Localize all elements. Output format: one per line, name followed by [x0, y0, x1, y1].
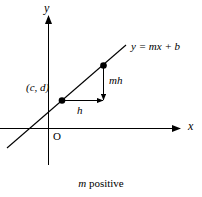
graph-line [7, 45, 126, 148]
x-axis-label: x [188, 120, 193, 132]
diagram-canvas [0, 0, 202, 197]
point-second [100, 62, 107, 69]
point-c-d [59, 97, 66, 104]
rise-label: mh [109, 75, 122, 86]
slope-diagram-figure: y x O y = mx + b (c, d) mh h m positive [0, 0, 202, 197]
figure-caption: m positive [0, 178, 202, 189]
caption-variable: m [78, 177, 86, 189]
origin-label: O [53, 131, 61, 142]
line-equation-label: y = mx + b [131, 41, 180, 52]
point-coordinate-label: (c, d) [26, 82, 49, 93]
run-label: h [77, 105, 83, 116]
y-axis-label: y [44, 2, 49, 14]
